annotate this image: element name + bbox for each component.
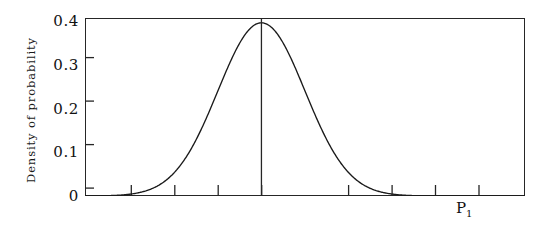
p1-label: P <box>456 199 466 217</box>
y-tick-label: 0.1 <box>33 145 79 160</box>
y-tick-label: 0.2 <box>33 102 79 117</box>
normal-density-curve <box>85 23 525 196</box>
p1-annotation: P1 <box>456 199 472 219</box>
y-tick-label: 0.3 <box>33 58 79 73</box>
p1-subscript: 1 <box>466 208 472 219</box>
y-tick-label: 0.4 <box>33 14 79 29</box>
y-tick-label: 0 <box>33 189 79 204</box>
y-tick-label-group: 0.4 0.3 0.2 0.1 0 <box>33 0 79 229</box>
figure-normal-density-plot: Density of probability 0.4 0.3 0.2 0.1 0 <box>0 0 552 229</box>
x-ticks <box>131 185 479 196</box>
y-minor-ticks <box>85 58 94 189</box>
plot-canvas <box>85 18 525 196</box>
